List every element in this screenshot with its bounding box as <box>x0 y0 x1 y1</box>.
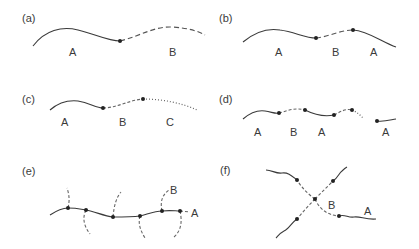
junction-dot <box>66 206 70 210</box>
segment-label: A <box>382 126 390 138</box>
segment-b-block-A2 <box>353 30 396 47</box>
junction-dot <box>178 209 182 213</box>
segment-b-block-A1 <box>243 30 316 43</box>
segment-label: A <box>318 126 326 138</box>
segment-a-block-A <box>33 29 120 46</box>
junction-dot <box>337 214 341 218</box>
panel-f: (f) B A <box>220 164 376 238</box>
segment-e-backbone-A <box>50 208 180 217</box>
junction-dot <box>332 113 336 117</box>
segment-label: A <box>364 205 372 217</box>
junction-dot <box>350 108 354 112</box>
copolymer-architecture-diagram: (a) A B (b) A B A (c) A B C (d) <box>0 0 419 249</box>
core-junction-dot <box>313 197 317 201</box>
segment-d-block-B <box>279 109 305 113</box>
panel-d: (d) A B A A <box>219 93 396 138</box>
panel-label-f: (f) <box>220 164 230 176</box>
segment-label: B <box>169 46 176 58</box>
segment-d-block-A2 <box>305 110 334 116</box>
junction-dot <box>277 111 281 115</box>
panel-label-c: (c) <box>22 93 35 105</box>
junction-dot <box>84 208 88 212</box>
segment-d-block-A3 <box>377 119 396 121</box>
segment-label: A <box>191 207 199 219</box>
junction-dot <box>118 39 122 43</box>
panel-b: (b) A B A <box>219 12 396 58</box>
panel-c: (c) A B C <box>22 93 197 128</box>
segment-label: A <box>254 126 262 138</box>
panel-label-a: (a) <box>22 12 35 24</box>
panel-label-d: (d) <box>219 93 232 105</box>
junction-dot <box>331 179 335 183</box>
segment-label: A <box>61 116 69 128</box>
star-arm-A <box>266 170 297 180</box>
graft-branch-B <box>67 188 69 208</box>
segment-label: B <box>290 126 297 138</box>
graft-branch-B <box>161 190 169 211</box>
junction-dot <box>138 214 142 218</box>
segment-label: B <box>328 199 335 211</box>
segment-label: B <box>332 46 339 58</box>
junction-dot <box>111 215 115 219</box>
segment-label: A <box>69 46 77 58</box>
graft-branch-B <box>139 216 145 238</box>
segment-d-block-A1 <box>243 111 279 119</box>
segment-c-block-B <box>103 99 143 108</box>
segment-a-block-B <box>120 27 205 41</box>
junction-dot <box>295 178 299 182</box>
star-arm-A <box>276 219 297 238</box>
segment-b-block-B <box>316 30 353 38</box>
panel-label-b: (b) <box>219 12 232 24</box>
segment-label: C <box>166 116 174 128</box>
junction-dot <box>303 108 307 112</box>
panel-e: (e) B A <box>22 165 199 238</box>
segment-c-block-C <box>143 99 197 110</box>
star-arm-A <box>333 167 347 181</box>
junction-dot <box>101 106 105 110</box>
graft-branch-B <box>174 211 181 237</box>
star-arm-B <box>315 199 339 216</box>
star-arm-B <box>297 180 315 199</box>
segment-c-block-A <box>50 101 103 110</box>
star-arm-B <box>297 199 315 219</box>
junction-dot <box>314 36 318 40</box>
junction-dot <box>375 119 379 123</box>
segment-label: B <box>119 116 126 128</box>
junction-dot <box>141 97 145 101</box>
segment-label: A <box>275 46 283 58</box>
junction-dot <box>160 209 164 213</box>
segment-d-block-C <box>352 110 363 118</box>
star-arm-B <box>315 181 333 199</box>
panel-a: (a) A B <box>22 12 205 58</box>
junction-dot <box>351 28 355 32</box>
segment-label: B <box>170 184 177 196</box>
panel-label-e: (e) <box>22 165 35 177</box>
segment-d-block-B2 <box>334 109 352 115</box>
graft-branch-B <box>113 192 121 217</box>
junction-dot <box>295 217 299 221</box>
segment-label: A <box>370 46 378 58</box>
graft-branch-B <box>84 210 90 234</box>
